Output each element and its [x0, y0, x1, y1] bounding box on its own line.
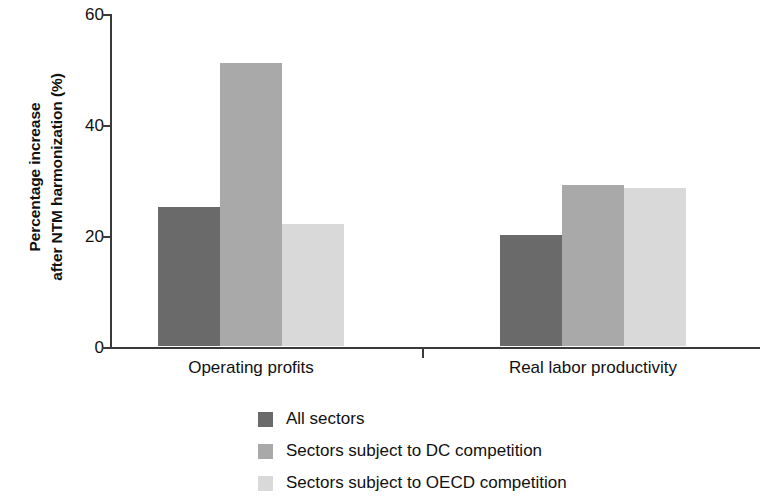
bar	[500, 235, 562, 346]
y-axis-tick-0	[102, 347, 111, 349]
x-axis-category-label-operating-profits: Operating profits	[91, 358, 411, 378]
bar	[562, 185, 624, 346]
plot-area	[110, 14, 760, 348]
bar	[282, 224, 344, 346]
y-axis-title-line-1: Percentage increase	[24, 47, 46, 307]
y-axis-tick-label-40: 40	[58, 117, 104, 134]
bar	[220, 63, 282, 346]
y-axis-line	[110, 14, 112, 349]
y-axis-tick-label-60: 60	[58, 6, 104, 23]
bar	[624, 188, 686, 346]
legend-swatch-icon-dc-competition	[258, 444, 273, 459]
legend-swatch-icon-all-sectors	[258, 412, 273, 427]
y-axis-tick-label-0: 0	[58, 339, 104, 356]
legend-swatch-icon-oecd-competition	[258, 476, 273, 491]
legend-item-oecd-competition: Sectors subject to OECD competition	[258, 468, 758, 498]
bar-chart-figure: Percentage increase after NTM harmonizat…	[0, 0, 773, 501]
legend: All sectors Sectors subject to DC compet…	[258, 404, 758, 500]
bar	[158, 207, 220, 346]
legend-label-dc-competition: Sectors subject to DC competition	[286, 441, 542, 461]
x-axis-line	[110, 347, 760, 349]
legend-item-all-sectors: All sectors	[258, 404, 758, 434]
y-axis-tick-40	[102, 125, 111, 127]
legend-label-all-sectors: All sectors	[286, 409, 364, 429]
y-axis-tick-labels: 60 40 20 0	[58, 14, 104, 350]
x-axis-group-separator-tick	[422, 347, 424, 358]
legend-item-dc-competition: Sectors subject to DC competition	[258, 436, 758, 466]
y-axis-tick-label-20: 20	[58, 228, 104, 245]
legend-label-oecd-competition: Sectors subject to OECD competition	[286, 473, 567, 493]
x-axis-category-label-real-labor-productivity: Real labor productivity	[433, 358, 753, 378]
y-axis-tick-20	[102, 236, 111, 238]
y-axis-tick-60	[102, 14, 111, 16]
